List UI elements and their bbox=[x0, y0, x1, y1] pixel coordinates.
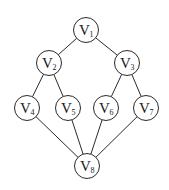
node-v4: V4 bbox=[15, 96, 40, 121]
node-label: V bbox=[20, 100, 31, 116]
edge-v2-v4 bbox=[32, 74, 43, 97]
node-label: V bbox=[139, 100, 150, 116]
node-subscript: 1 bbox=[90, 30, 94, 39]
edge-v3-v7 bbox=[132, 75, 141, 97]
node-subscript: 4 bbox=[31, 108, 35, 117]
node-subscript: 6 bbox=[110, 108, 114, 117]
node-v7: V7 bbox=[134, 96, 159, 121]
node-subscript: 3 bbox=[131, 63, 135, 72]
node-label: V bbox=[120, 55, 131, 71]
node-subscript: 5 bbox=[72, 108, 76, 117]
node-label: V bbox=[42, 55, 53, 71]
edge-v1-v3 bbox=[96, 38, 118, 55]
node-v5: V5 bbox=[56, 96, 81, 121]
graph-diagram: V1V2V3V4V5V6V7V8 bbox=[0, 0, 169, 190]
edge-v3-v6 bbox=[111, 74, 121, 96]
node-subscript: 2 bbox=[53, 63, 57, 72]
node-label: V bbox=[61, 100, 72, 116]
node-label: V bbox=[99, 100, 110, 116]
node-v2: V2 bbox=[37, 51, 62, 76]
node-subscript: 8 bbox=[91, 166, 95, 175]
node-v3: V3 bbox=[115, 51, 140, 76]
edge-v5-v8 bbox=[72, 120, 83, 154]
edge-v1-v2 bbox=[58, 38, 76, 54]
node-label: V bbox=[80, 158, 91, 174]
edge-v2-v5 bbox=[54, 75, 63, 97]
node-v6: V6 bbox=[94, 96, 119, 121]
node-v8: V8 bbox=[75, 154, 100, 179]
node-label: V bbox=[79, 22, 90, 38]
edge-v7-v8 bbox=[96, 117, 137, 157]
edge-v4-v8 bbox=[36, 117, 78, 158]
edge-v6-v8 bbox=[91, 120, 102, 154]
nodes-group: V1V2V3V4V5V6V7V8 bbox=[15, 18, 159, 179]
node-v1: V1 bbox=[74, 18, 99, 43]
node-subscript: 7 bbox=[150, 108, 154, 117]
